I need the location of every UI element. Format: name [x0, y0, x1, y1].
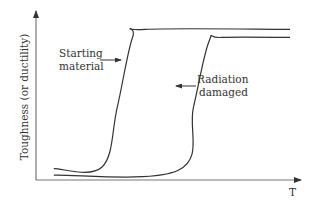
annotation-radiation-damaged-line2: damaged	[199, 86, 248, 98]
y-axis-label: Toughness (or ductility)	[18, 34, 30, 161]
annotation-radiation-damaged-line1: Radiation	[197, 73, 249, 85]
x-axis-label: T	[289, 186, 296, 198]
annotation-starting-material-line1: Starting	[59, 47, 103, 59]
annotation-starting-material-line2: material	[59, 60, 104, 72]
chart: T Toughness (or ductility) Starting mate…	[0, 0, 315, 203]
